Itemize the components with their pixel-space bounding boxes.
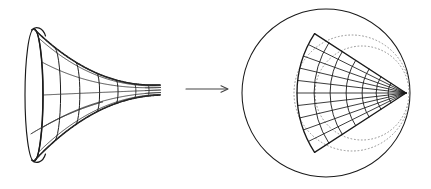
figure-svg <box>0 0 431 189</box>
canvas-background <box>0 0 431 189</box>
figure-container: Pseudosphere mapped to sector of the Poi… <box>0 0 431 189</box>
